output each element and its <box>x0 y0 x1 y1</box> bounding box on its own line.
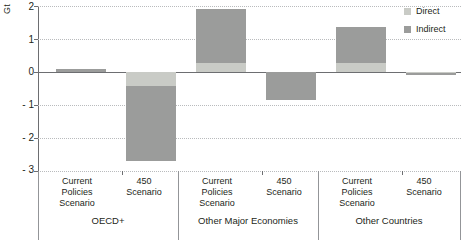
gridline-2 <box>38 6 461 7</box>
y-tick-label-2: 2 <box>10 2 34 12</box>
bar-segment-indirect <box>336 27 386 63</box>
category-label-other-major-450: 450 Scenario <box>254 176 314 198</box>
bar-oecd-450-scenario <box>126 72 176 161</box>
legend-swatch-indirect-icon <box>404 26 411 33</box>
gridline-neg1 <box>38 105 461 106</box>
category-label-other-countries-450: 450 Scenario <box>394 176 454 198</box>
category-label-oecd-current-policies: Current Policies Scenario <box>44 176 110 209</box>
y-tick-label-neg1: - 1 <box>10 100 34 110</box>
category-label-other-countries-current-policies: Current Policies Scenario <box>324 176 390 209</box>
gridline-neg3 <box>38 171 461 172</box>
group-label-oecd: OECD+ <box>38 215 178 226</box>
legend-item-indirect: Indirect <box>404 25 446 34</box>
category-label-line1: 450 <box>254 176 314 187</box>
category-label-line2: Scenario <box>254 187 314 198</box>
category-label-line1: Current <box>44 176 110 187</box>
bar-segment-direct <box>196 63 246 72</box>
bar-other-countries-450-scenario <box>406 72 456 75</box>
bar-segment-indirect <box>56 69 106 72</box>
bar-segment-direct <box>336 63 386 72</box>
bar-oecd-current-policies <box>56 69 106 72</box>
category-label-line3: Scenario <box>44 198 110 209</box>
x-tick-mark-3 <box>402 171 403 175</box>
group-separator-2 <box>318 171 319 240</box>
category-label-other-major-current-policies: Current Policies Scenario <box>184 176 250 209</box>
panel-border-right <box>460 171 461 240</box>
bar-other-major-current-policies <box>196 9 246 72</box>
bar-other-countries-current-policies <box>336 27 386 72</box>
bar-segment-direct <box>126 72 176 86</box>
bar-other-major-450-scenario <box>266 72 316 100</box>
bar-segment-indirect <box>126 86 176 161</box>
category-label-line2: Policies <box>184 187 250 198</box>
group-label-other-countries: Other Countries <box>318 215 460 226</box>
category-label-oecd-450: 450 Scenario <box>114 176 174 198</box>
group-separator-1 <box>178 171 179 240</box>
chart-container: Gt 2 1 0 - 1 - 2 - 3 <box>0 0 463 242</box>
legend-swatch-direct-icon <box>404 8 411 15</box>
bar-segment-indirect <box>196 9 246 63</box>
panel-border-left <box>38 171 39 240</box>
bar-segment-indirect <box>406 73 456 75</box>
y-tick-label-neg3: - 3 <box>10 165 34 175</box>
legend: Direct Indirect <box>404 7 446 43</box>
category-label-line1: 450 <box>114 176 174 187</box>
legend-label-indirect: Indirect <box>416 25 446 34</box>
y-tick-label-0: 0 <box>10 67 34 77</box>
zero-line <box>38 72 461 73</box>
category-label-line1: Current <box>184 176 250 187</box>
y-axis: 2 1 0 - 1 - 2 - 3 <box>0 0 34 242</box>
category-label-line2: Scenario <box>114 187 174 198</box>
category-label-line1: Current <box>324 176 390 187</box>
category-label-line3: Scenario <box>324 198 390 209</box>
y-tick-label-1: 1 <box>10 35 34 45</box>
category-label-line1: 450 <box>394 176 454 187</box>
gridline-1 <box>38 39 461 40</box>
legend-item-direct: Direct <box>404 7 446 16</box>
y-tick-label-neg2: - 2 <box>10 133 34 143</box>
category-label-line2: Scenario <box>394 187 454 198</box>
category-label-line2: Policies <box>44 187 110 198</box>
legend-label-direct: Direct <box>416 7 440 16</box>
group-label-other-major: Other Major Economies <box>178 215 318 226</box>
gridline-neg2 <box>38 138 461 139</box>
category-label-line2: Policies <box>324 187 390 198</box>
x-tick-mark-2 <box>262 171 263 175</box>
bar-segment-indirect <box>266 72 316 100</box>
x-tick-mark-1 <box>122 171 123 175</box>
category-label-line3: Scenario <box>184 198 250 209</box>
plot-area <box>38 6 461 171</box>
